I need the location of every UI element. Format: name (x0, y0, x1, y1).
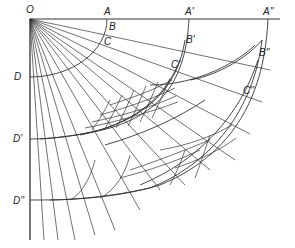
label-A-prime: A' (185, 7, 194, 17)
label-D-double-prime: D'' (13, 196, 24, 206)
label-C-double-prime: C'' (243, 86, 254, 96)
label-C-prime: C' (171, 60, 180, 70)
label-B: B (109, 22, 116, 32)
label-B-prime: B' (186, 35, 195, 45)
label-A: A (104, 7, 111, 17)
label-B-double-prime: B'' (259, 48, 270, 58)
label-D-prime: D' (13, 134, 22, 144)
label-A-double-prime: A'' (263, 7, 274, 17)
label-D: D (14, 72, 21, 82)
wavefront-diagram (0, 0, 295, 248)
label-O: O (26, 5, 34, 15)
label-C: C (104, 37, 111, 47)
